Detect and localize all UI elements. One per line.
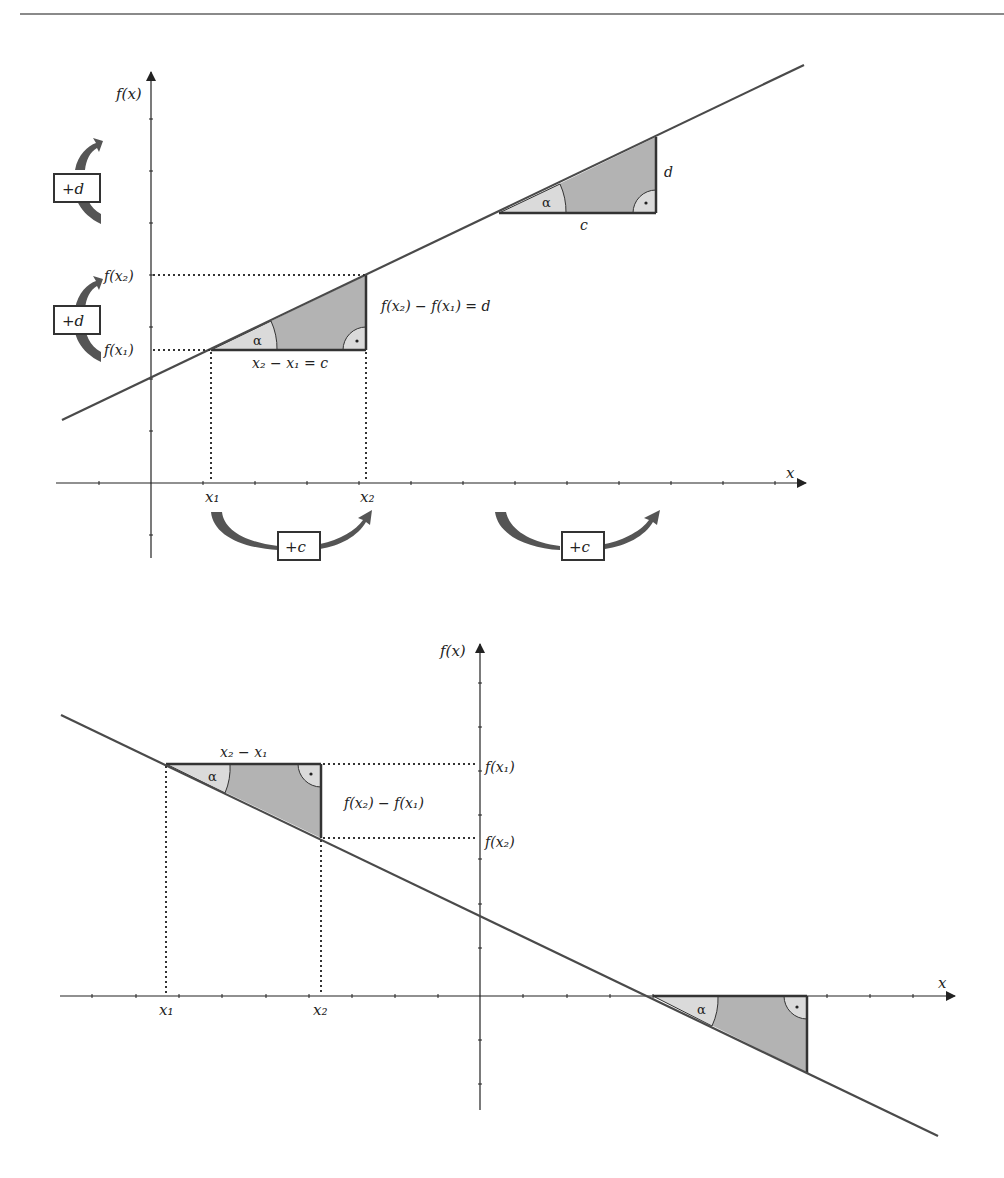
- top-triangle-1-angle-label: α: [253, 333, 262, 348]
- plus-d-upper-label: +d: [62, 180, 84, 198]
- bottom-fx1-label: f(x₁): [484, 759, 515, 775]
- bottom-triangle-2-angle-label: α: [697, 1002, 706, 1017]
- top-y-axis-label: f(x): [115, 85, 142, 103]
- top-y-axis: [149, 72, 153, 558]
- bottom-x-axis-label: x: [938, 974, 947, 992]
- top-x-axis-label: x: [786, 464, 795, 482]
- top-x1-label: x₁: [205, 488, 219, 506]
- plus-d-lower-label: +d: [62, 312, 84, 330]
- top-slope-triangle-1: α x₂ − x₁ = c f(x₂) − f(x₁) = d: [211, 275, 490, 371]
- plus-c-left-label: +c: [285, 538, 307, 556]
- bottom-x1-label: x₁: [159, 1001, 173, 1019]
- bottom-triangle-1-base-label: x₂ − x₁: [220, 744, 268, 760]
- top-x-axis: [56, 481, 806, 485]
- bottom-triangle-1-angle-label: α: [208, 769, 217, 784]
- top-fx1-label: f(x₁): [103, 342, 134, 358]
- top-triangle-1-height-label: f(x₂) − f(x₁) = d: [380, 298, 490, 314]
- top-triangle-2-height-label: d: [664, 164, 673, 180]
- bottom-diagram: x f(x) α x₂ −: [60, 642, 955, 1136]
- top-fx2-label: f(x₂): [103, 268, 134, 284]
- top-triangle-1-base-label: x₂ − x₁ = c: [252, 355, 328, 371]
- bottom-linear-function-line: [61, 715, 938, 1136]
- bottom-y-axis: [478, 644, 482, 1110]
- top-triangle-2-base-label: c: [580, 217, 588, 233]
- bottom-slope-triangle-1: α x₂ − x₁ f(x₂) − f(x₁): [166, 744, 424, 838]
- bottom-y-axis-label: f(x): [439, 642, 466, 660]
- plus-c-right-label: +c: [569, 538, 591, 556]
- bottom-fx2-label: f(x₂): [484, 834, 515, 850]
- top-x2-label: x₂: [360, 488, 374, 506]
- top-triangle-2-angle-label: α: [542, 195, 551, 210]
- top-diagram: x f(x) α x₂ − x₁ = c: [54, 65, 806, 560]
- bottom-x-axis: [60, 994, 955, 998]
- top-slope-triangle-2: α c d: [499, 137, 673, 233]
- top-linear-function-line: [62, 65, 804, 420]
- bottom-triangle-1-height-label: f(x₂) − f(x₁): [343, 795, 424, 811]
- bottom-x2-label: x₂: [313, 1001, 327, 1019]
